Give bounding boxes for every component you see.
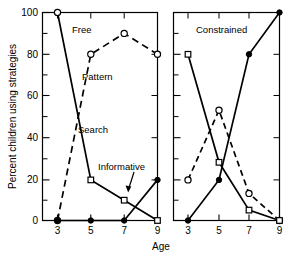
left-xtick-label-5: 5 bbox=[88, 225, 94, 236]
ytick-label-40: 40 bbox=[27, 132, 39, 143]
right-informative-point-age3 bbox=[185, 218, 190, 223]
right-panel-frame bbox=[174, 13, 280, 221]
right-pattern-point-age5 bbox=[216, 107, 222, 113]
right-informative-point-age9 bbox=[277, 10, 282, 15]
right-search-point-age3 bbox=[185, 52, 191, 58]
left-pattern-point-age5 bbox=[88, 51, 94, 57]
ytick-label-100: 100 bbox=[21, 7, 38, 18]
right-informative-point-age5 bbox=[216, 177, 221, 182]
ytick-label-20: 20 bbox=[27, 174, 39, 185]
series-label-pattern: Pattern bbox=[82, 71, 113, 82]
left-pattern-point-age9 bbox=[154, 51, 160, 57]
ytick-label-80: 80 bbox=[27, 49, 39, 60]
left-informative-point-age3 bbox=[55, 218, 60, 223]
right-pattern-point-age3 bbox=[185, 177, 191, 183]
left-search-point-age9 bbox=[155, 218, 161, 224]
right-xtick-label-3: 3 bbox=[185, 225, 191, 236]
ytick-label-0: 0 bbox=[32, 215, 38, 226]
chart-figure: 100 80 60 40 20 0 3 5 7 9 3 5 7 9 Age Pe… bbox=[0, 0, 291, 256]
right-xtick-label-7: 7 bbox=[246, 225, 252, 236]
series-label-search: Search bbox=[78, 124, 108, 135]
left-pattern-point-age7 bbox=[121, 30, 127, 36]
x-axis-title: Age bbox=[152, 241, 170, 252]
left-search-point-age5 bbox=[88, 177, 94, 183]
ytick-label-60: 60 bbox=[27, 90, 39, 101]
y-axis-title: Percent children using strategies bbox=[7, 44, 18, 189]
left-informative-point-age9 bbox=[155, 177, 160, 182]
left-xtick-label-7: 7 bbox=[121, 225, 127, 236]
right-panel-label-constrained: Constrained bbox=[196, 24, 247, 35]
right-xtick-label-5: 5 bbox=[216, 225, 222, 236]
left-panel bbox=[43, 13, 158, 221]
right-xtick-label-9: 9 bbox=[277, 225, 283, 236]
chart-svg: 100 80 60 40 20 0 3 5 7 9 3 5 7 9 Age Pe… bbox=[0, 0, 291, 256]
left-xtick-label-9: 9 bbox=[155, 225, 161, 236]
left-search-point-age7 bbox=[121, 197, 127, 203]
right-search-point-age5 bbox=[216, 160, 222, 166]
right-panel bbox=[174, 13, 280, 221]
left-panel-frame bbox=[43, 13, 158, 221]
left-xtick-label-3: 3 bbox=[55, 225, 61, 236]
left-informative-point-age7 bbox=[122, 218, 127, 223]
right-search-point-age9 bbox=[277, 218, 283, 224]
right-search-point-age7 bbox=[246, 207, 252, 213]
right-pattern-point-age7 bbox=[246, 190, 252, 196]
series-label-informative: Informative bbox=[98, 161, 145, 172]
left-informative-point-age5 bbox=[88, 218, 93, 223]
left-panel-label-free: Free bbox=[72, 24, 92, 35]
left-search-point-age3 bbox=[54, 9, 60, 15]
right-informative-point-age7 bbox=[246, 52, 251, 57]
